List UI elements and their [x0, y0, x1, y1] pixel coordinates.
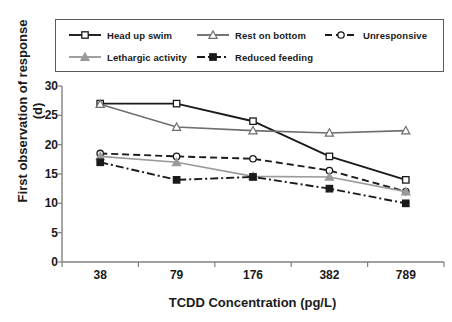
x-tick-label: 38 — [70, 268, 130, 282]
data-point-marker — [250, 156, 256, 162]
series-head-up-swim — [97, 100, 409, 183]
series-lines — [96, 100, 410, 206]
data-point-marker — [326, 153, 332, 159]
data-point-marker — [250, 174, 256, 180]
data-point-marker — [403, 200, 409, 206]
x-tick-label: 382 — [299, 268, 359, 282]
data-point-marker — [403, 177, 409, 183]
series-line — [100, 104, 406, 180]
line-chart: Head up swim Rest on bottom Unresponsive… — [0, 0, 452, 322]
x-tick-label: 176 — [223, 268, 283, 282]
data-point-marker — [173, 177, 179, 183]
x-tick-label: 789 — [376, 268, 436, 282]
data-point-marker — [97, 159, 103, 165]
data-point-marker — [250, 118, 256, 124]
x-axis-title: TCDD Concentration (pg/L) — [60, 295, 445, 310]
x-tick-label: 79 — [147, 268, 207, 282]
data-point-marker — [173, 100, 179, 106]
data-point-marker — [326, 185, 332, 191]
